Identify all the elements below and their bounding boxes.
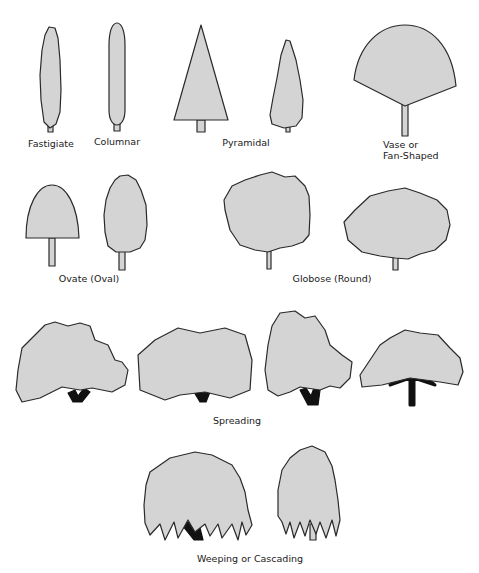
globose-tree-2 [344, 188, 450, 270]
tree-shapes-diagram [0, 0, 479, 573]
spreading-tree-2 [138, 328, 252, 402]
label-vase-line2: Fan-Shaped [383, 150, 439, 161]
fastigiate-tree [40, 27, 61, 132]
label-ovate: Ovate (Oval) [59, 273, 119, 284]
globose-tree-1 [224, 172, 310, 269]
spreading-tree-3 [265, 311, 352, 405]
columnar-tree [109, 23, 125, 131]
spreading-tree-1 [16, 322, 128, 402]
label-fastigiate: Fastigiate [28, 138, 74, 149]
label-vase-line1: Vase or [383, 139, 418, 150]
pyramidal-tree [174, 25, 228, 132]
label-pyramidal: Pyramidal [222, 137, 269, 148]
vase-tree [354, 25, 456, 136]
label-weeping: Weeping or Cascading [197, 553, 303, 564]
ovate-tree-1 [26, 185, 79, 266]
label-globose: Globose (Round) [293, 273, 372, 284]
ovate-tree-2 [104, 175, 147, 270]
weeping-tree-2 [278, 446, 340, 540]
pyramidal-tree-narrow [270, 40, 303, 132]
weeping-tree-1 [144, 452, 252, 540]
label-columnar: Columnar [94, 136, 140, 147]
label-spreading: Spreading [213, 415, 261, 426]
spreading-tree-4 [360, 330, 463, 405]
